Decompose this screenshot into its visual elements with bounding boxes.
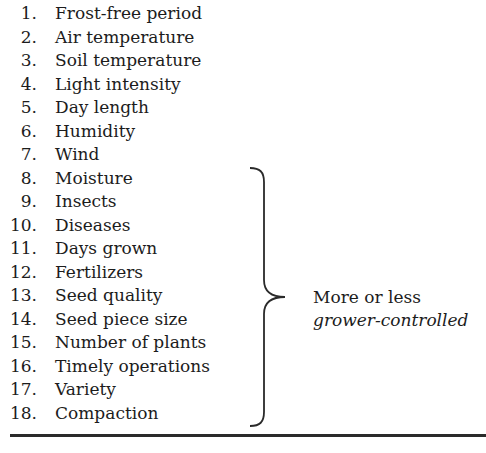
list-item: 2.Air temperature	[0, 26, 240, 50]
item-label: Diseases	[55, 214, 131, 238]
item-label: Seed piece size	[55, 308, 188, 332]
right-brace-icon	[244, 160, 294, 440]
list-item: 9.Insects	[0, 190, 240, 214]
item-label: Days grown	[55, 237, 157, 261]
item-label: Compaction	[55, 402, 158, 426]
item-label: Day length	[55, 96, 149, 120]
item-number: 10.	[10, 214, 37, 238]
bracket-note: More or less grower-controlled	[313, 286, 468, 332]
list-item: 18.Compaction	[0, 402, 240, 426]
list-item: 14.Seed piece size	[0, 308, 240, 332]
list-item: 5.Day length	[0, 96, 240, 120]
factor-list: 1.Frost-free period 2.Air temperature 3.…	[0, 2, 240, 425]
list-item: 8.Moisture	[0, 167, 240, 191]
list-item: 6.Humidity	[0, 120, 240, 144]
list-item: 12.Fertilizers	[0, 261, 240, 285]
item-label: Humidity	[55, 120, 135, 144]
item-number: 11.	[10, 237, 37, 261]
item-number: 4.	[21, 73, 37, 97]
item-label: Variety	[55, 378, 116, 402]
item-number: 1.	[21, 2, 37, 26]
item-label: Air temperature	[55, 26, 194, 50]
list-item: 7.Wind	[0, 143, 240, 167]
list-item: 11.Days grown	[0, 237, 240, 261]
item-number: 5.	[21, 96, 37, 120]
note-line-1: More or less	[313, 286, 468, 309]
list-item: 1.Frost-free period	[0, 2, 240, 26]
item-number: 15.	[10, 331, 37, 355]
item-number: 6.	[21, 120, 37, 144]
item-label: Soil temperature	[55, 49, 201, 73]
list-item: 17.Variety	[0, 378, 240, 402]
item-number: 13.	[10, 284, 37, 308]
item-label: Light intensity	[55, 73, 181, 97]
item-number: 2.	[21, 26, 37, 50]
item-number: 14.	[10, 308, 37, 332]
item-label: Insects	[55, 190, 117, 214]
list-item: 16.Timely operations	[0, 355, 240, 379]
note-line-2: grower-controlled	[313, 309, 468, 332]
item-number: 12.	[10, 261, 37, 285]
item-label: Frost-free period	[55, 2, 202, 26]
item-label: Fertilizers	[55, 261, 143, 285]
list-item: 13.Seed quality	[0, 284, 240, 308]
list-item: 3.Soil temperature	[0, 49, 240, 73]
item-number: 3.	[21, 49, 37, 73]
list-item: 4.Light intensity	[0, 73, 240, 97]
item-label: Number of plants	[55, 331, 206, 355]
list-item: 10.Diseases	[0, 214, 240, 238]
bottom-rule	[10, 434, 486, 437]
list-item: 15.Number of plants	[0, 331, 240, 355]
item-number: 8.	[21, 167, 37, 191]
item-number: 7.	[21, 143, 37, 167]
item-number: 17.	[10, 378, 37, 402]
item-label: Wind	[55, 143, 99, 167]
item-number: 18.	[10, 402, 37, 426]
item-number: 16.	[10, 355, 37, 379]
item-label: Moisture	[55, 167, 133, 191]
item-label: Timely operations	[55, 355, 210, 379]
item-number: 9.	[21, 190, 37, 214]
item-label: Seed quality	[55, 284, 162, 308]
